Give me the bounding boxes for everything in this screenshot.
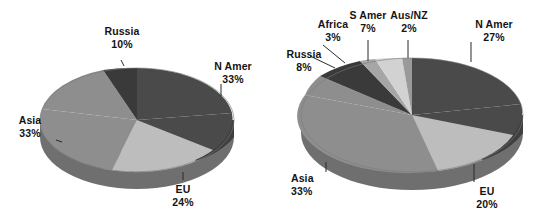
- pie-chart-figure: Russia 10% N Amer 33% Asia 33% EU 24%: [0, 0, 549, 224]
- right-label-asia: Asia 33%: [291, 172, 343, 198]
- left-label-russia: Russia 10%: [82, 25, 162, 51]
- right-label-n-amer: N Amer 27%: [461, 18, 527, 44]
- right-label-aus-nz: Aus/NZ 2%: [380, 9, 438, 35]
- left-label-n-amer: N Amer 33%: [196, 60, 270, 86]
- left-label-asia: Asia 33%: [4, 114, 56, 140]
- right-label-eu: EU 20%: [461, 185, 513, 211]
- right-pie-chart: Africa 3% S Amer 7% Aus/NZ 2% Russia 8% …: [275, 0, 549, 224]
- right-label-russia: Russia 8%: [273, 48, 335, 74]
- left-label-eu: EU 24%: [152, 183, 214, 209]
- left-pie-chart: Russia 10% N Amer 33% Asia 33% EU 24%: [0, 0, 275, 224]
